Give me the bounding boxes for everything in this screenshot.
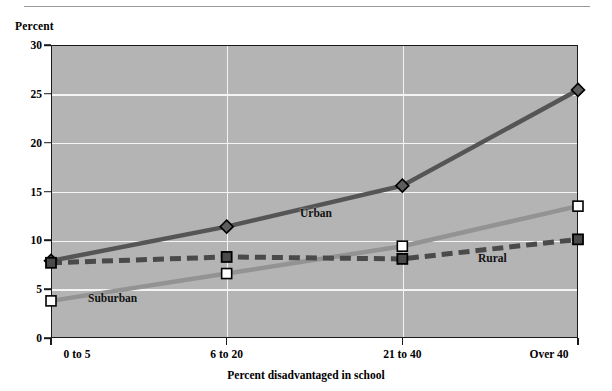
x-axis-title: Percent disadvantaged in school bbox=[0, 369, 612, 381]
series-label-urban: Urban bbox=[300, 207, 332, 219]
chart-figure: Percent 0510152025300 to 56 to 2021 to 4… bbox=[0, 0, 612, 391]
data-point-marker bbox=[222, 269, 232, 279]
data-point-marker bbox=[222, 252, 232, 262]
data-point-marker bbox=[573, 234, 583, 244]
data-point-marker bbox=[397, 254, 407, 264]
data-point-marker bbox=[573, 201, 583, 211]
series-overlay bbox=[0, 0, 612, 391]
data-point-marker bbox=[46, 258, 56, 268]
series-urban bbox=[45, 83, 585, 267]
data-point-marker bbox=[220, 220, 233, 233]
series-label-rural: Rural bbox=[478, 252, 507, 264]
data-point-marker bbox=[46, 296, 56, 306]
series-line bbox=[51, 90, 578, 261]
series-label-suburban: Suburban bbox=[88, 292, 137, 304]
data-point-marker bbox=[397, 241, 407, 251]
